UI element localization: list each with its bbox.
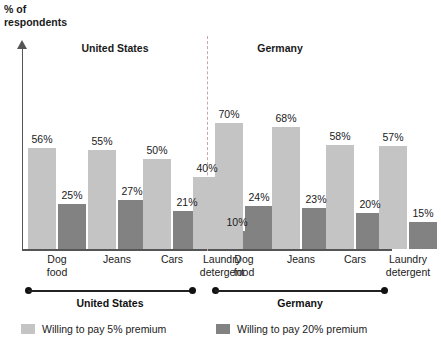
legend-item-20-percent: Willing to pay 20% premium	[216, 323, 367, 335]
span-line-de	[215, 290, 383, 292]
legend-item-5-percent: Willing to pay 5% premium	[21, 323, 166, 335]
bar-united-states-jeans-light	[88, 150, 116, 249]
y-axis-caption-line-2: respondents	[4, 16, 124, 29]
y-axis-caption-line-1: % of	[4, 3, 124, 16]
category-label-line-1: Laundry	[367, 253, 441, 266]
span-dot-de-right	[381, 287, 388, 294]
category-label-line-2: food	[203, 266, 285, 279]
bar-united-states-cars-light	[143, 159, 171, 249]
panel-heading-germany: Germany	[225, 42, 335, 54]
bar-united-states-jeans-dark	[118, 200, 146, 249]
bar-united-states-dog-food-dark	[58, 204, 86, 249]
value-label: 56%	[23, 133, 61, 145]
value-label: 10%	[218, 216, 256, 228]
y-axis-caption: % of respondents	[4, 3, 124, 29]
value-label: 21%	[168, 196, 206, 208]
category-label-line-2: detergent	[367, 266, 441, 279]
value-label: 27%	[113, 185, 151, 197]
value-label: 24%	[240, 191, 278, 203]
span-line-us	[28, 290, 191, 292]
span-dot-us-right	[189, 287, 196, 294]
y-axis-line	[22, 42, 23, 250]
legend-swatch-dark-icon	[216, 324, 230, 334]
bar-germany-jeans-light	[272, 127, 300, 249]
value-label: 50%	[138, 144, 176, 156]
value-label: 68%	[267, 112, 305, 124]
value-label: 20%	[351, 198, 389, 210]
legend-label-20-percent: Willing to pay 20% premium	[237, 323, 367, 335]
category-label: Laundrydetergent	[367, 253, 441, 278]
span-label-united-states: United States	[25, 297, 195, 309]
value-label: 70%	[210, 108, 248, 120]
legend-swatch-light-icon	[21, 324, 35, 334]
value-label: 55%	[83, 135, 121, 147]
legend-label-5-percent: Willing to pay 5% premium	[42, 323, 166, 335]
span-label-germany: Germany	[212, 297, 388, 309]
value-label: 15%	[404, 207, 441, 219]
category-label-line-2: food	[16, 266, 98, 279]
value-label: 40%	[188, 162, 226, 174]
bar-germany-dog-food-light	[215, 123, 243, 249]
value-label: 25%	[53, 189, 91, 201]
value-label: 58%	[321, 130, 359, 142]
bar-united-states-dog-food-light	[28, 148, 56, 249]
value-label: 57%	[374, 131, 412, 143]
value-label: 23%	[297, 193, 335, 205]
bar-germany-laundry-detergent-dark	[409, 222, 437, 249]
panel-heading-united-states: United States	[60, 42, 170, 54]
